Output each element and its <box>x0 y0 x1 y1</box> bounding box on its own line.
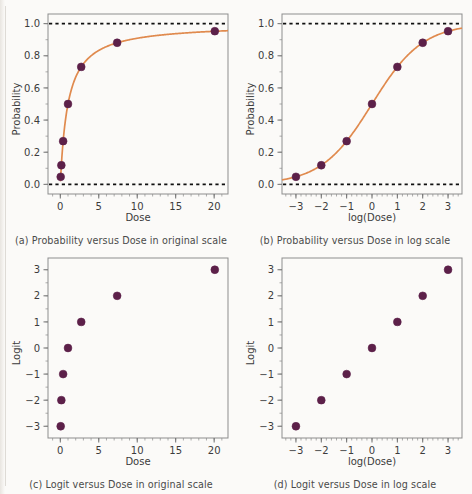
data-point <box>368 100 376 108</box>
svg-text:3: 3 <box>445 445 451 456</box>
panel-d-xlabel: log(Dose) <box>348 456 396 467</box>
panel-a-plot: 051015200.00.20.40.60.81.0 Probability D… <box>6 4 236 248</box>
svg-text:0: 0 <box>57 445 63 456</box>
svg-text:0.6: 0.6 <box>258 83 274 94</box>
svg-text:0.8: 0.8 <box>258 50 274 61</box>
svg-text:2: 2 <box>34 290 40 301</box>
data-point <box>317 396 325 404</box>
data-point <box>444 27 452 35</box>
svg-text:10: 10 <box>131 445 144 456</box>
data-point <box>393 318 401 326</box>
panel-c-caption: (c) Logit versus Dose in original scale <box>6 479 236 490</box>
svg-text:0: 0 <box>57 201 63 212</box>
svg-text:0: 0 <box>369 201 375 212</box>
svg-text:−1: −1 <box>339 445 354 456</box>
data-point <box>57 396 65 404</box>
panel-a-xlabel: Dose <box>125 212 150 223</box>
data-point <box>57 422 65 430</box>
svg-text:1: 1 <box>34 317 40 328</box>
data-point <box>64 100 72 108</box>
svg-text:20: 20 <box>208 445 221 456</box>
data-point <box>59 370 67 378</box>
svg-text:1: 1 <box>394 445 400 456</box>
svg-text:0: 0 <box>34 343 40 354</box>
svg-text:1.0: 1.0 <box>24 18 40 29</box>
svg-text:2: 2 <box>268 290 274 301</box>
svg-text:15: 15 <box>169 201 182 212</box>
panel-d-ylabel: Logit <box>245 341 256 366</box>
data-point <box>113 39 121 47</box>
figure-container: 051015200.00.20.40.60.81.0 Probability D… <box>0 0 472 494</box>
panel-c-plot: 05101520−3−2−10123 Logit Dose <box>6 248 236 492</box>
data-point <box>419 292 427 300</box>
panel-b-caption: (b) Probability versus Dose in log scale <box>240 235 470 246</box>
data-point <box>64 344 72 352</box>
panel-a-caption: (a) Probability versus Dose in original … <box>6 235 236 246</box>
data-point <box>393 63 401 71</box>
svg-text:2: 2 <box>420 201 426 212</box>
svg-text:0: 0 <box>268 343 274 354</box>
data-point <box>113 292 121 300</box>
svg-text:3: 3 <box>445 201 451 212</box>
svg-text:2: 2 <box>420 445 426 456</box>
data-point <box>211 27 219 35</box>
svg-text:−3: −3 <box>259 421 274 432</box>
panel-c-ylabel: Logit <box>11 341 22 366</box>
svg-text:−3: −3 <box>289 201 304 212</box>
data-point <box>57 173 65 181</box>
svg-text:0.4: 0.4 <box>24 115 40 126</box>
panel-b-xlabel: log(Dose) <box>348 212 396 223</box>
svg-text:0.8: 0.8 <box>24 50 40 61</box>
svg-text:−1: −1 <box>259 369 274 380</box>
svg-text:3: 3 <box>34 264 40 275</box>
svg-text:−1: −1 <box>25 369 40 380</box>
data-point <box>59 137 67 145</box>
panel-c-xlabel: Dose <box>125 456 150 467</box>
data-point <box>57 161 65 169</box>
svg-text:0.0: 0.0 <box>258 179 274 190</box>
data-point <box>419 39 427 47</box>
svg-text:−3: −3 <box>289 445 304 456</box>
svg-text:5: 5 <box>96 445 102 456</box>
svg-text:0.6: 0.6 <box>24 83 40 94</box>
data-point <box>317 161 325 169</box>
svg-text:−1: −1 <box>339 201 354 212</box>
data-point <box>77 318 85 326</box>
panel-d-caption: (d) Logit versus Dose in log scale <box>240 479 470 490</box>
svg-text:1: 1 <box>394 201 400 212</box>
svg-text:−3: −3 <box>25 421 40 432</box>
svg-text:3: 3 <box>268 264 274 275</box>
svg-text:1.0: 1.0 <box>258 18 274 29</box>
svg-text:0.2: 0.2 <box>24 147 40 158</box>
svg-text:−2: −2 <box>314 445 329 456</box>
svg-text:0.0: 0.0 <box>24 179 40 190</box>
svg-text:0.2: 0.2 <box>258 147 274 158</box>
data-point <box>211 266 219 274</box>
panel-b-plot: −3−2−101230.00.20.40.60.81.0 Probability… <box>240 4 470 248</box>
svg-text:10: 10 <box>131 201 144 212</box>
svg-text:15: 15 <box>169 445 182 456</box>
svg-text:5: 5 <box>96 201 102 212</box>
data-point <box>292 173 300 181</box>
svg-text:−2: −2 <box>25 395 40 406</box>
data-point <box>343 137 351 145</box>
data-point <box>343 370 351 378</box>
panel-b-ylabel: Probability <box>245 82 256 135</box>
svg-text:20: 20 <box>208 201 221 212</box>
panel-d-plot: −3−2−10123−3−2−10123 Logit log(Dose) <box>240 248 470 492</box>
data-point <box>292 422 300 430</box>
data-point <box>444 266 452 274</box>
svg-text:0: 0 <box>369 445 375 456</box>
panel-c: 05101520−3−2−10123 Logit Dose (c) Logit … <box>6 248 236 492</box>
svg-text:−2: −2 <box>259 395 274 406</box>
svg-text:0.4: 0.4 <box>258 115 274 126</box>
data-point <box>77 63 85 71</box>
panel-b: −3−2−101230.00.20.40.60.81.0 Probability… <box>240 4 470 248</box>
panel-d: −3−2−10123−3−2−10123 Logit log(Dose) (d)… <box>240 248 470 492</box>
panel-a-ylabel: Probability <box>11 82 22 135</box>
svg-text:−2: −2 <box>314 201 329 212</box>
svg-text:1: 1 <box>268 317 274 328</box>
data-point <box>368 344 376 352</box>
panel-a: 051015200.00.20.40.60.81.0 Probability D… <box>6 4 236 248</box>
